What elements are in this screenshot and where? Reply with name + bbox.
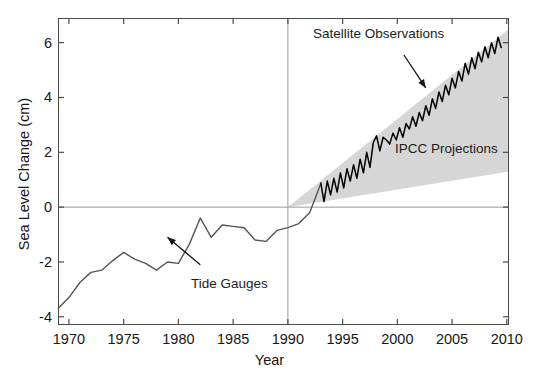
- x-tick-label: 1970: [53, 331, 85, 347]
- x-tick-label: 1990: [272, 331, 304, 347]
- annotation-satellite-observations: Satellite Observations: [313, 26, 444, 41]
- x-tick-label: 1975: [108, 331, 140, 347]
- x-tick-label: 1995: [326, 331, 358, 347]
- annotation-ipcc-projections: IPCC Projections: [395, 141, 498, 156]
- x-tick-label: 2005: [436, 331, 468, 347]
- x-axis-tick-labels: 197019751980198519901995200020052010: [0, 0, 539, 385]
- y-axis-title: Sea Level Change (cm): [16, 54, 32, 294]
- sea-level-chart-figure: -4-20246 1970197519801985199019952000200…: [0, 0, 539, 385]
- x-tick-label: 2010: [491, 331, 523, 347]
- x-axis-title: Year: [0, 352, 539, 368]
- annotation-tide-gauges: Tide Gauges: [191, 276, 268, 291]
- x-tick-label: 2000: [381, 331, 413, 347]
- x-tick-label: 1985: [217, 331, 249, 347]
- x-tick-label: 1980: [162, 331, 194, 347]
